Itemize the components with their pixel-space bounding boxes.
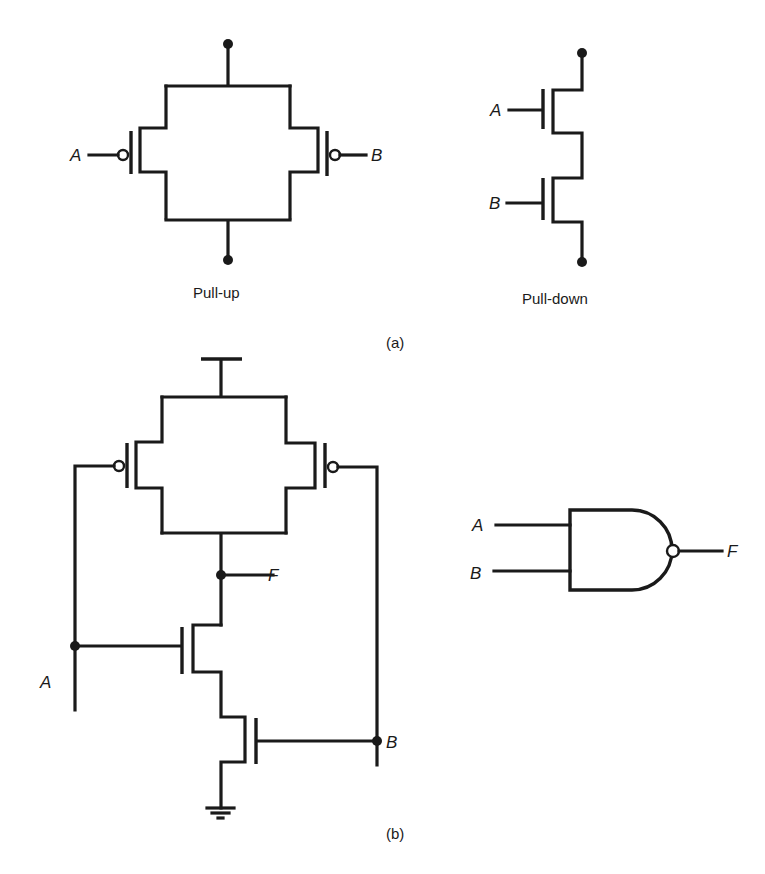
output-f-label: F bbox=[268, 566, 280, 585]
pull-down-channel bbox=[553, 53, 582, 262]
pull-up-caption: Pull-up bbox=[193, 284, 240, 301]
pull-up-input-b-label: B bbox=[371, 146, 382, 165]
pull-down-input-a-label: A bbox=[489, 101, 501, 120]
b-pmos-b-channel bbox=[286, 397, 315, 533]
input-b-label: B bbox=[386, 733, 397, 752]
nand-input-a-label: A bbox=[471, 516, 483, 535]
pull-down-bottom-terminal bbox=[577, 257, 587, 267]
vdd-rail bbox=[162, 360, 286, 397]
nand-gate-symbol: A B F bbox=[470, 510, 739, 590]
nand-output-f-label: F bbox=[727, 542, 739, 561]
pmos-a-channel bbox=[140, 86, 166, 218]
pull-down-input-b-label: B bbox=[489, 194, 500, 213]
a-input-wire bbox=[75, 466, 114, 710]
part-a-label: (a) bbox=[386, 334, 404, 351]
pull-down-network: A B Pull-down bbox=[489, 48, 588, 307]
cmos-nand-circuit: F A B bbox=[39, 359, 397, 818]
cmos-nand-diagram: A B Pull-up A B Pull-down (a) bbox=[0, 0, 765, 874]
nand-gate-body-icon bbox=[570, 510, 672, 590]
part-b-label: (b) bbox=[386, 825, 404, 842]
input-a-label: A bbox=[39, 673, 51, 692]
b-nmos-stack-channel bbox=[193, 625, 245, 808]
pull-up-top-rail bbox=[166, 44, 290, 86]
pmos-b-channel bbox=[290, 86, 318, 218]
pull-up-network: A B Pull-up bbox=[69, 39, 382, 301]
nand-output-bubble bbox=[667, 545, 679, 557]
ground-icon bbox=[207, 808, 234, 818]
pull-up-input-a-label: A bbox=[69, 146, 81, 165]
nand-input-b-label: B bbox=[470, 564, 481, 583]
b-input-wire bbox=[338, 467, 377, 765]
b-pmos-a-channel bbox=[136, 397, 162, 533]
pull-down-caption: Pull-down bbox=[522, 290, 588, 307]
pull-up-bottom-terminal bbox=[223, 255, 233, 265]
pull-up-bottom-rail bbox=[166, 220, 290, 260]
